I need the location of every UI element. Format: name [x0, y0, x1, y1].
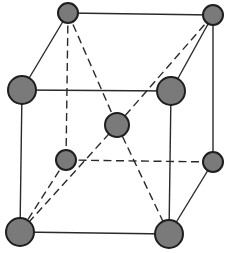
atom-back-top-right — [203, 5, 223, 25]
atom-back-bottom-left — [56, 150, 76, 170]
atom-front-bottom-right — [155, 220, 183, 248]
atom-front-top-right — [157, 77, 185, 105]
atom-front-bottom-left — [6, 218, 34, 246]
atom-back-top-left — [58, 3, 78, 23]
unit-cell-diagram — [0, 0, 229, 253]
atom-body-center — [105, 113, 129, 137]
edge-front-top-left-to-front-top-right — [22, 90, 171, 91]
atom-back-bottom-right — [203, 152, 223, 172]
atom-front-top-left — [8, 76, 36, 104]
